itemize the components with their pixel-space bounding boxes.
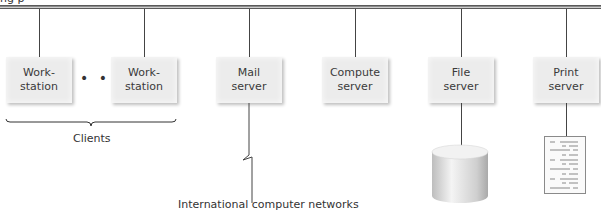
bus-connector-mail-server — [249, 9, 250, 57]
bus-connector-workstation-2 — [144, 9, 145, 57]
bus-connector-workstation-1 — [39, 9, 40, 57]
node-label: Work- station — [125, 66, 163, 94]
clients-brace-icon — [5, 118, 177, 128]
node-file-server: File server — [428, 57, 494, 103]
wan-link-icon — [240, 103, 260, 203]
bus-connector-file-server — [461, 9, 462, 57]
international-networks-label: International computer networks — [178, 198, 359, 211]
node-label: Compute server — [330, 66, 380, 94]
network-bus — [0, 5, 601, 9]
node-label: Print server — [549, 66, 584, 94]
disk-storage-icon — [430, 144, 492, 206]
bus-connector-print-server — [566, 9, 567, 57]
node-workstation-1: Work- station — [6, 57, 72, 103]
node-label: File server — [444, 66, 479, 94]
file-server-connector — [461, 103, 462, 148]
node-print-server: Print server — [533, 57, 599, 103]
node-mail-server: Mail server — [216, 57, 282, 103]
node-compute-server: Compute server — [322, 57, 388, 103]
node-workstation-2: Work- station — [111, 57, 177, 103]
printed-document-icon — [544, 136, 588, 196]
clients-label: Clients — [73, 132, 111, 145]
node-label: Mail server — [232, 66, 267, 94]
node-label: Work- station — [20, 66, 58, 94]
print-server-connector — [566, 103, 567, 136]
bus-connector-compute-server — [355, 9, 356, 57]
